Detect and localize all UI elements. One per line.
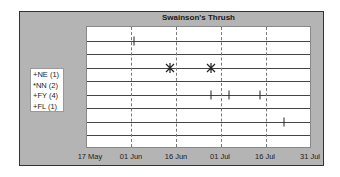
x-tick-label: 16 Jul (255, 152, 275, 161)
nn-point-marker-icon (165, 63, 175, 73)
x-tick-label: 17 May (78, 152, 103, 161)
gridline-v-01jul (221, 27, 222, 147)
gridline-h (87, 108, 310, 109)
gridline-h (87, 81, 310, 82)
x-tick-label: 01 Jul (210, 152, 230, 161)
gridline-h (87, 135, 310, 136)
x-tick-label: 31 Jul (300, 152, 320, 161)
gridline-h (87, 68, 310, 69)
legend-item-ne: +NE (1) (33, 70, 63, 81)
fy-point-marker (260, 90, 261, 99)
x-tick-label: 16 Jun (165, 152, 188, 161)
gridline-h (87, 41, 310, 42)
gridline-v-16jun (176, 27, 177, 147)
gridline-h (87, 54, 310, 55)
fl-point-marker (284, 117, 285, 126)
fy-point-marker (211, 90, 212, 99)
gridline-h (87, 95, 310, 96)
legend-item-fl: +FL (1) (33, 102, 63, 113)
gridline-v-16jul (266, 27, 267, 147)
legend-item-fy: +FY (4) (33, 91, 63, 102)
legend-item-nn: *NN (2) (33, 81, 63, 92)
plot-area (86, 26, 311, 148)
gridline-v-01jun (131, 27, 132, 147)
chart-title: Swainson's Thrush (86, 13, 311, 22)
x-tick-label: 01 Jun (120, 152, 143, 161)
ne-point-marker (134, 36, 135, 45)
chart-legend: +NE (1) *NN (2) +FY (4) +FL (1) (30, 68, 64, 112)
fy-point-marker (229, 90, 230, 99)
nn-point-marker-icon (206, 63, 216, 73)
gridline-h (87, 122, 310, 123)
